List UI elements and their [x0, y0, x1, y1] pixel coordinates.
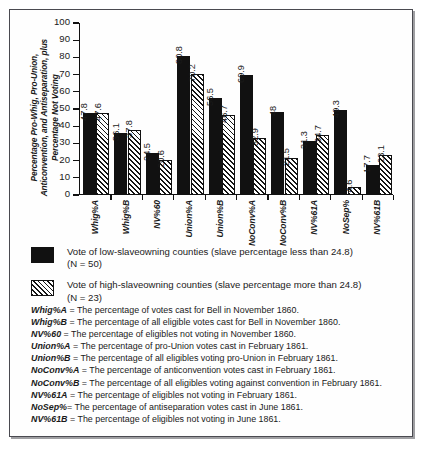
footnote-key: Union%B	[31, 353, 70, 363]
x-axis-tick	[299, 195, 300, 200]
footnote-key: NV%61B	[31, 414, 68, 424]
x-axis-tick	[267, 195, 268, 200]
x-axis-tick	[205, 195, 206, 200]
footnote-key: Whig%A	[31, 305, 67, 315]
plot-area: 1009080706050403020100 47.847.6Whig%A36.…	[79, 23, 393, 195]
y-axis-tick-label: 90	[44, 33, 70, 45]
footnote-key: NoConv%B	[31, 378, 79, 388]
footnote-line: NoSep%= The percentage of antiseparation…	[31, 401, 403, 413]
x-axis-category-label: Whig%A	[90, 200, 100, 234]
footnote-line: NV%60 = The percentage of eligibles not …	[31, 328, 403, 340]
x-axis-tick	[110, 195, 111, 200]
x-axis-category-label: NoConv%B	[278, 200, 288, 246]
bar: 46.7	[222, 115, 235, 195]
y-axis-tick-label: 20	[44, 154, 70, 166]
bar-value-label: 47.8	[79, 103, 89, 121]
legend-count: (N = 50)	[67, 258, 353, 270]
bar: 32.9	[253, 138, 266, 195]
bar-chart: Percentage Pro-Whig, Pro-Union, Anticonv…	[10, 10, 414, 235]
footnote-text: = The percentage of all eligibles voting…	[70, 353, 337, 363]
footnote-key: Whig%B	[31, 317, 67, 327]
bar-value-label: 20.6	[156, 150, 166, 168]
footnote-line: Union%A = The percentage of pro-Union vo…	[31, 340, 403, 352]
x-axis-category-label: Whig%B	[121, 200, 131, 234]
legend-swatch	[31, 247, 54, 263]
footnote-line: NV%61A = The percentage of eligibles not…	[31, 389, 403, 401]
footnote-key: NoConv%A	[31, 365, 79, 375]
x-axis-category-label: NoConv%A	[247, 200, 257, 246]
legend-item: Vote of low-slaveowning counties (slave …	[10, 246, 414, 270]
bar: 36.1	[114, 133, 127, 195]
footnote-text: = The percentage of eligibles not voting…	[68, 390, 298, 400]
footnote-key: NV%60	[31, 329, 61, 339]
bar-group: 69.932.9NoConv%A	[236, 23, 267, 195]
bar-value-label: 17.7	[362, 155, 372, 173]
footnote-text: = The percentage of all eligible votes c…	[67, 317, 340, 327]
x-axis-tick	[142, 195, 143, 200]
bar: 47.6	[96, 113, 109, 195]
y-axis-tick-label: 40	[44, 119, 70, 131]
bar-value-label: 21.5	[281, 148, 291, 166]
footnote-line: NoConv%A = The percentage of anticonvent…	[31, 364, 403, 376]
footnote-key: NoSep%	[31, 402, 67, 412]
x-axis-category-label: NoSep%	[341, 200, 351, 234]
y-axis-tick-label: 10	[44, 171, 70, 183]
y-axis-tick-label: 0	[44, 188, 70, 200]
footnote-text: = The percentage of all eligibles voting…	[79, 378, 382, 388]
bar-value-label: 32.9	[250, 128, 260, 146]
bar-group: 47.847.6Whig%A	[79, 23, 110, 195]
bar-value-label: 80.8	[174, 46, 184, 64]
footnote-text: = The percentage of pro-Union votes cast…	[70, 341, 308, 351]
bar-value-label: 36.1	[111, 123, 121, 141]
legend-swatch	[31, 280, 54, 296]
bar: 20.6	[159, 160, 172, 195]
bar: 47.8	[83, 113, 96, 195]
bar-group: 17.723.1NV%61B	[362, 23, 393, 195]
bar-group: 56.546.7Union%B	[205, 23, 236, 195]
legend-label-line: Vote of low-slaveowning counties (slave …	[67, 246, 353, 258]
bar: 70.2	[191, 74, 204, 195]
bar-value-label: 69.9	[236, 65, 246, 83]
y-axis-tick-label: 30	[44, 136, 70, 148]
footnote-line: NoConv%B = The percentage of all eligibl…	[31, 377, 403, 389]
footnote-text: = The percentage of eligibles not voting…	[68, 414, 281, 424]
legend-label: Vote of high-slaveowning counties (slave…	[67, 279, 361, 303]
x-axis-tick	[362, 195, 363, 200]
x-axis-category-label: Union%B	[215, 200, 225, 238]
bar-value-label: 56.5	[205, 88, 215, 106]
footnote-text: = The percentage of eligibles not voting…	[61, 329, 296, 339]
footnote-line: NV%61B = The percentage of eligibles not…	[31, 413, 403, 425]
x-axis-category-label: Union%A	[184, 200, 194, 238]
footnote-line: Whig%B = The percentage of all eligible …	[31, 316, 403, 328]
y-axis-tick-label: 80	[44, 50, 70, 62]
bar: 17.7	[366, 165, 379, 195]
footnote-text: = The percentage of votes cast for Bell …	[67, 305, 299, 315]
bar-value-label: 4.6	[344, 180, 354, 193]
figure-frame: Percentage Pro-Whig, Pro-Union, Anticonv…	[9, 9, 413, 437]
y-axis-tick-label: 60	[44, 85, 70, 97]
legend-label: Vote of low-slaveowning counties (slave …	[67, 246, 353, 270]
footnote-key: Union%A	[31, 341, 70, 351]
bar-value-label: 24.5	[142, 143, 152, 161]
bar-group: 4821.5NoConv%B	[267, 23, 298, 195]
bar: 34.7	[316, 135, 329, 195]
footnote-text: = The percentage of anticonvention votes…	[79, 365, 335, 375]
bar-value-label: 49.3	[331, 100, 341, 118]
bar-group: 36.137.8Whig%B	[110, 23, 141, 195]
x-axis-category-label: NV%61A	[309, 200, 319, 235]
footnote-line: Union%B = The percentage of all eligible…	[31, 352, 403, 364]
legend-count: (N = 23)	[67, 292, 361, 304]
bar-value-label: 70.2	[187, 64, 197, 82]
bar-group: 49.34.6NoSep%	[330, 23, 361, 195]
chart-legend: Vote of low-slaveowning counties (slave …	[10, 246, 414, 313]
x-axis-tick	[236, 195, 237, 200]
bar: 31.3	[303, 141, 316, 195]
y-axis-tick-label: 70	[44, 68, 70, 80]
x-axis-category-label: NV%60	[152, 200, 162, 229]
bar-value-label: 48	[268, 106, 278, 116]
y-axis-tick-label: 100	[44, 16, 70, 28]
bar: 4.6	[348, 187, 361, 195]
bar-value-label: 46.7	[219, 105, 229, 123]
x-axis-tick	[173, 195, 174, 200]
bar-group: 80.870.2Union%A	[173, 23, 204, 195]
